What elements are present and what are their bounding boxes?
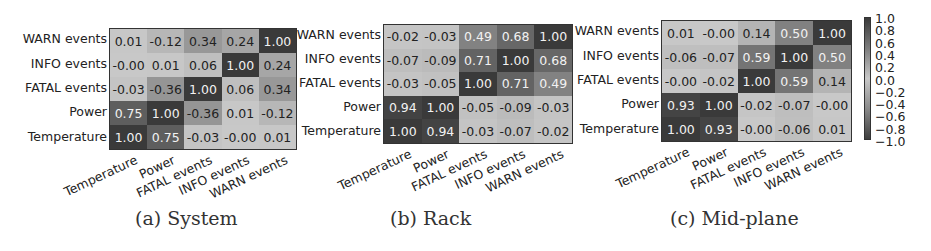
heatmap-cell: 1.00 bbox=[813, 21, 851, 45]
heatmap-cell: 1.00 bbox=[422, 96, 460, 120]
heatmap-cell: 0.01 bbox=[110, 29, 147, 53]
heatmap-cell: 1.00 bbox=[534, 25, 572, 49]
heatmap-cell: -0.05 bbox=[459, 96, 497, 120]
heatmap-cell: 1.00 bbox=[497, 49, 535, 73]
subfigure-caption: (c) Mid-plane bbox=[670, 207, 799, 229]
heatmap-cell: -0.02 bbox=[534, 119, 572, 143]
heatmap-cell: -0.09 bbox=[422, 49, 460, 73]
heatmap-cell: 0.94 bbox=[422, 119, 460, 143]
heatmap-grid: 0.01-0.120.340.241.00-0.000.010.061.000.… bbox=[109, 28, 297, 150]
heatmap-cell: -0.06 bbox=[775, 117, 813, 141]
heatmap-grid: 0.01-0.000.140.501.00-0.06-0.070.591.000… bbox=[661, 20, 852, 142]
y-axis-label: INFO events bbox=[305, 53, 381, 66]
heatmap-cell: 0.71 bbox=[497, 72, 535, 96]
heatmap-cell: 1.00 bbox=[700, 93, 738, 117]
colorbar-tick-label: −1.0 bbox=[875, 136, 905, 149]
x-axis-label: Temperature bbox=[62, 154, 139, 199]
heatmap-cell: 0.59 bbox=[775, 69, 813, 93]
heatmap-cell: -0.02 bbox=[700, 69, 738, 93]
heatmap-cell: 0.68 bbox=[534, 49, 572, 73]
heatmap-grid: -0.02-0.030.490.681.00-0.07-0.090.711.00… bbox=[383, 24, 573, 144]
heatmap-cell: 0.06 bbox=[184, 53, 221, 77]
y-axis-label: FATAL events bbox=[25, 82, 107, 95]
subfigure-caption: (a) System bbox=[135, 207, 238, 229]
heatmap-cell: 0.49 bbox=[459, 25, 497, 49]
heatmap-cell: 0.68 bbox=[497, 25, 535, 49]
heatmap-cell: 0.93 bbox=[662, 93, 700, 117]
heatmap-cell: 0.01 bbox=[147, 53, 184, 77]
heatmap-cell: 1.00 bbox=[147, 101, 184, 125]
heatmap-cell: 0.50 bbox=[813, 45, 851, 69]
heatmap-cell: -0.36 bbox=[184, 101, 221, 125]
heatmap-cell: 1.00 bbox=[110, 125, 147, 149]
heatmap-cell: -0.36 bbox=[147, 77, 184, 101]
heatmap-cell: 0.75 bbox=[110, 101, 147, 125]
heatmap-cell: -0.07 bbox=[700, 45, 738, 69]
heatmap-cell: 0.01 bbox=[662, 21, 700, 45]
heatmap-cell: 0.01 bbox=[813, 117, 851, 141]
heatmap-cell: 0.34 bbox=[184, 29, 221, 53]
heatmap-cell: -0.00 bbox=[738, 117, 776, 141]
heatmap-cell: 0.71 bbox=[459, 49, 497, 73]
y-axis-label: INFO events bbox=[31, 58, 107, 71]
heatmap-cell: -0.03 bbox=[534, 96, 572, 120]
y-axis-label: Power bbox=[69, 106, 107, 119]
y-axis-label: FATAL events bbox=[299, 77, 381, 90]
heatmap-cell: -0.12 bbox=[147, 29, 184, 53]
y-axis-label: WARN events bbox=[23, 33, 107, 46]
heatmap-cell: -0.00 bbox=[662, 69, 700, 93]
heatmap-cell: -0.06 bbox=[662, 45, 700, 69]
heatmap-cell: -0.03 bbox=[422, 25, 460, 49]
heatmap-cell: -0.03 bbox=[184, 125, 221, 149]
heatmap-cell: 0.59 bbox=[738, 45, 776, 69]
heatmap-cell: -0.05 bbox=[422, 72, 460, 96]
colorbar bbox=[864, 17, 871, 140]
subfigure-caption: (b) Rack bbox=[390, 207, 471, 229]
heatmap-cell: 1.00 bbox=[184, 77, 221, 101]
heatmap-cell: -0.12 bbox=[259, 101, 296, 125]
heatmap-cell: -0.02 bbox=[384, 25, 422, 49]
heatmap-cell: 1.00 bbox=[384, 119, 422, 143]
heatmap-cell: 0.93 bbox=[700, 117, 738, 141]
heatmap-cell: 0.24 bbox=[259, 53, 296, 77]
heatmap-cell: 0.49 bbox=[534, 72, 572, 96]
y-axis-label: Temperature bbox=[580, 123, 659, 136]
x-axis-label: Temperature bbox=[336, 148, 413, 193]
heatmap-cell: -0.02 bbox=[738, 93, 776, 117]
heatmap-cell: 0.94 bbox=[384, 96, 422, 120]
heatmap-cell: -0.09 bbox=[497, 96, 535, 120]
heatmap-cell: 1.00 bbox=[662, 117, 700, 141]
heatmap-cell: -0.03 bbox=[384, 72, 422, 96]
heatmap-cell: 0.14 bbox=[813, 69, 851, 93]
heatmap-cell: 0.50 bbox=[775, 21, 813, 45]
heatmap-cell: 1.00 bbox=[738, 69, 776, 93]
heatmap-cell: -0.03 bbox=[110, 77, 147, 101]
heatmap-cell: -0.00 bbox=[110, 53, 147, 77]
heatmap-cell: -0.07 bbox=[384, 49, 422, 73]
heatmap-cell: 0.06 bbox=[222, 77, 259, 101]
y-axis-label: Power bbox=[343, 101, 381, 114]
y-axis-label: WARN events bbox=[575, 25, 659, 38]
heatmap-cell: 0.14 bbox=[738, 21, 776, 45]
heatmap-cell: -0.07 bbox=[775, 93, 813, 117]
heatmap-cell: -0.07 bbox=[497, 119, 535, 143]
heatmap-cell: -0.03 bbox=[459, 119, 497, 143]
heatmap-cell: 0.24 bbox=[222, 29, 259, 53]
y-axis-label: WARN events bbox=[297, 29, 381, 42]
x-axis-label: Temperature bbox=[614, 146, 691, 191]
heatmap-cell: 0.01 bbox=[259, 125, 296, 149]
heatmap-cell: -0.00 bbox=[222, 125, 259, 149]
heatmap-cell: 0.34 bbox=[259, 77, 296, 101]
y-axis-label: FATAL events bbox=[577, 74, 659, 87]
y-axis-label: Temperature bbox=[302, 125, 381, 138]
y-axis-label: Temperature bbox=[28, 131, 107, 144]
heatmap-cell: 0.75 bbox=[147, 125, 184, 149]
y-axis-label: INFO events bbox=[583, 50, 659, 63]
heatmap-cell: 0.01 bbox=[222, 101, 259, 125]
heatmap-cell: 1.00 bbox=[222, 53, 259, 77]
heatmap-cell: 1.00 bbox=[259, 29, 296, 53]
heatmap-cell: 1.00 bbox=[775, 45, 813, 69]
heatmap-cell: 1.00 bbox=[459, 72, 497, 96]
y-axis-label: Power bbox=[621, 98, 659, 111]
heatmap-cell: -0.00 bbox=[813, 93, 851, 117]
